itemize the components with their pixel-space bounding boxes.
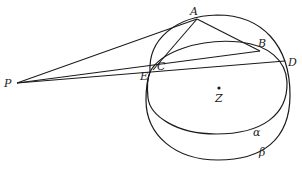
label-P: P — [3, 77, 12, 90]
line-PD — [17, 61, 285, 83]
center-point-z — [217, 86, 220, 89]
label-C: C — [157, 60, 166, 73]
label-alpha: α — [253, 126, 261, 139]
label-Z: Z — [214, 92, 223, 105]
label-beta: β — [258, 146, 265, 159]
label-B: B — [257, 37, 266, 50]
label-E: E — [139, 70, 148, 83]
circle-alpha — [147, 41, 287, 134]
geometry-diagram: P A B C D E Z α β — [0, 0, 302, 176]
line-PB — [17, 51, 260, 83]
label-A: A — [189, 5, 198, 18]
line-AB — [197, 19, 260, 51]
diagram-svg: P A B C D E Z α β — [0, 0, 302, 176]
label-D: D — [287, 56, 297, 69]
